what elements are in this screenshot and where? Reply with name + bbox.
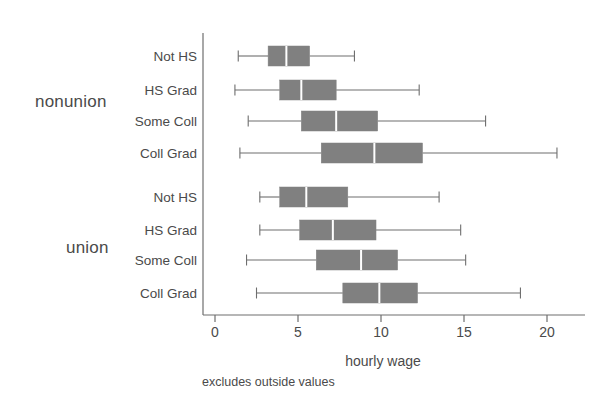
category-label-union-1: HS Grad: [60, 223, 197, 238]
box-plot-item: [257, 283, 521, 303]
x-tick-label: 10: [351, 324, 411, 340]
x-tick-label: 15: [434, 324, 494, 340]
x-axis-title: hourly wage: [303, 353, 463, 369]
category-label-nonunion-2: Some Coll: [60, 114, 197, 129]
box-plot-item: [238, 46, 354, 66]
x-tick-label: 5: [268, 324, 328, 340]
group-label-union: union: [66, 238, 109, 258]
chart-footnote: excludes outside values: [202, 375, 335, 389]
x-tick-label: 0: [185, 324, 245, 340]
box-plot-chart: 05101520Not HSHS GradSome CollColl GradN…: [0, 0, 597, 407]
box-plot-item: [248, 111, 485, 131]
category-label-union-0: Not HS: [60, 190, 197, 205]
box-plot-item: [260, 220, 461, 240]
category-label-union-3: Coll Grad: [60, 286, 197, 301]
box-plot-item: [240, 143, 557, 163]
category-label-nonunion-3: Coll Grad: [60, 146, 197, 161]
box-plot-item: [235, 80, 419, 100]
box-plot-item: [260, 187, 439, 207]
x-tick-label: 20: [517, 324, 577, 340]
box-plot-item: [247, 250, 466, 270]
group-label-nonunion: nonunion: [35, 92, 107, 112]
category-label-nonunion-0: Not HS: [60, 49, 197, 64]
